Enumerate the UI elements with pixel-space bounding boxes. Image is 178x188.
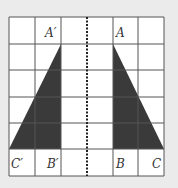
label-b-prime: B′ — [46, 157, 59, 171]
label-b: B — [115, 157, 125, 171]
label-c: C — [152, 157, 161, 171]
label-c-prime: C′ — [11, 157, 23, 171]
label-a-prime: A′ — [44, 26, 57, 40]
label-a: A — [115, 26, 125, 40]
reflection-diagram: A′ A C′ B′ B C — [0, 0, 178, 188]
